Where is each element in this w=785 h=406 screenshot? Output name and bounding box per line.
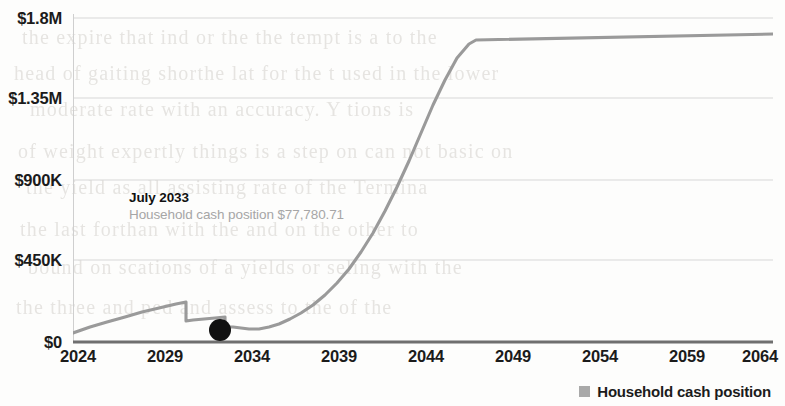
plot-area: [73, 14, 773, 344]
x-axis-tick-2054: 2054: [582, 347, 618, 366]
chart-screenshot: the expire that ind or the the tempt is …: [0, 0, 785, 406]
x-axis-tick-2049: 2049: [495, 347, 531, 366]
x-axis-tick-2059: 2059: [669, 347, 705, 366]
x-axis-tick-2024: 2024: [60, 347, 96, 366]
chart-legend: Household cash position: [579, 383, 771, 400]
annotation-marker-dot: [209, 319, 231, 341]
x-axis-tick-2034: 2034: [234, 347, 270, 366]
legend-swatch-icon: [579, 386, 590, 397]
x-axis-tick-2039: 2039: [321, 347, 357, 366]
series-line-household-cash-position: [73, 34, 773, 333]
x-axis-tick-2029: 2029: [147, 347, 183, 366]
annotation-date-label: July 2033: [129, 190, 344, 206]
y-axis-labels: $1.8M $1.35M $900K $450K $0: [0, 0, 68, 360]
annotation-value-label: Household cash position $77,780.71: [129, 207, 344, 223]
gridlines: [73, 18, 773, 260]
y-axis-tick-450K: $450K: [14, 251, 62, 270]
x-axis-tick-2064: 2064: [742, 347, 778, 366]
chart-canvas: [73, 14, 773, 348]
annotation-callout: July 2033 Household cash position $77,78…: [129, 190, 344, 223]
y-axis-tick-1.8M: $1.8M: [17, 9, 62, 28]
x-axis-tick-2044: 2044: [408, 347, 444, 366]
x-axis-labels: 2024 2029 2034 2039 2044 2049 2054 2059 …: [0, 347, 785, 371]
legend-item-label: Household cash position: [597, 383, 771, 400]
y-axis-tick-1.35M: $1.35M: [8, 89, 62, 108]
y-axis-tick-900K: $900K: [14, 171, 62, 190]
